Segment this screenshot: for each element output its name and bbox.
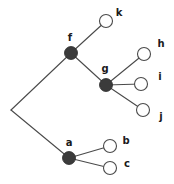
tree-diagram-canvas: fgakhijbc: [0, 0, 174, 184]
tree-node-i[interactable]: [135, 78, 148, 91]
tree-node-g[interactable]: [100, 79, 113, 92]
tree-node-a[interactable]: [63, 152, 76, 165]
tree-node-label-a: a: [66, 137, 73, 148]
tree-edge-f-k: [71, 21, 106, 53]
tree-node-c[interactable]: [104, 162, 117, 175]
tree-node-h[interactable]: [138, 48, 151, 61]
tree-node-label-c: c: [124, 158, 130, 169]
node-layer: [63, 15, 151, 175]
tree-node-label-j: j: [158, 111, 162, 122]
tree-edge-root-a: [11, 110, 69, 158]
tree-node-label-b: b: [122, 135, 129, 146]
tree-diagram-container: fgakhijbc: [0, 0, 174, 184]
tree-node-label-k: k: [116, 7, 123, 18]
tree-edge-root-f: [11, 53, 71, 110]
tree-node-f[interactable]: [65, 47, 78, 60]
tree-node-k[interactable]: [100, 15, 113, 28]
tree-node-j[interactable]: [137, 104, 150, 117]
tree-node-label-g: g: [101, 63, 108, 74]
tree-node-label-i: i: [158, 71, 161, 82]
tree-node-label-h: h: [157, 38, 164, 49]
tree-node-label-f: f: [68, 32, 73, 43]
tree-node-b[interactable]: [104, 140, 117, 153]
